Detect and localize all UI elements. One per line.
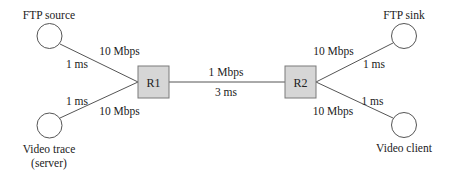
link-r2-video-client-delay: 1 ms (361, 95, 384, 107)
video-trace-node (37, 113, 62, 138)
link-video-trace-r1-delay: 1 ms (66, 95, 89, 107)
link-r2-ftp-sink-bandwidth: 10 Mbps (313, 45, 354, 58)
router-r2-label: R2 (293, 76, 307, 90)
video-trace-label: Video trace (23, 143, 76, 155)
video-client-node (392, 113, 417, 138)
link-r2-video-client-bandwidth: 10 Mbps (313, 105, 354, 118)
network-diagram: R1 R2 FTP source Video trace (server) FT… (0, 0, 454, 175)
router-r1-label: R1 (146, 76, 160, 90)
link-r1-r2-bandwidth: 1 Mbps (209, 66, 244, 79)
link-ftp-source-r1-delay: 1 ms (66, 58, 89, 70)
link-ftp-source-r1-bandwidth: 10 Mbps (99, 45, 140, 58)
video-client-label: Video client (376, 142, 433, 154)
link-video-trace-r1-bandwidth: 10 Mbps (99, 105, 140, 118)
ftp-source-node (37, 24, 62, 49)
ftp-source-label: FTP source (23, 9, 75, 21)
ftp-sink-node (392, 24, 417, 49)
ftp-sink-label: FTP sink (383, 9, 425, 21)
video-trace-server-label: (server) (31, 157, 67, 170)
link-r2-ftp-sink-delay: 1 ms (363, 58, 386, 70)
link-r1-r2-delay: 3 ms (215, 86, 238, 98)
